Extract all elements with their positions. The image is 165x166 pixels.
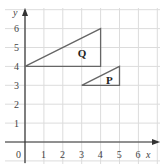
grid-lines bbox=[5, 8, 160, 164]
coordinate-grid-diagram: x y 0 123456123456 QP bbox=[0, 0, 165, 166]
y-tick-label: 4 bbox=[14, 61, 19, 72]
x-axis-label: x bbox=[145, 149, 151, 160]
x-axis-arrow-icon bbox=[152, 139, 160, 145]
tick-labels: 123456123456 bbox=[14, 23, 141, 160]
triangle-p-label: P bbox=[106, 74, 113, 86]
triangle-q-label: Q bbox=[78, 47, 87, 59]
shapes: QP bbox=[25, 29, 120, 86]
origin-label: 0 bbox=[16, 149, 21, 160]
y-tick-label: 5 bbox=[14, 42, 19, 53]
y-axis-label: y bbox=[12, 7, 18, 18]
x-tick-label: 1 bbox=[41, 149, 46, 160]
x-tick-label: 3 bbox=[79, 149, 84, 160]
y-tick-label: 6 bbox=[14, 23, 19, 34]
x-tick-label: 5 bbox=[117, 149, 122, 160]
y-tick-label: 1 bbox=[14, 118, 19, 129]
y-tick-label: 3 bbox=[14, 80, 19, 91]
y-tick-label: 2 bbox=[14, 99, 19, 110]
x-tick-label: 6 bbox=[136, 149, 141, 160]
x-tick-label: 2 bbox=[60, 149, 65, 160]
x-tick-label: 4 bbox=[98, 149, 103, 160]
